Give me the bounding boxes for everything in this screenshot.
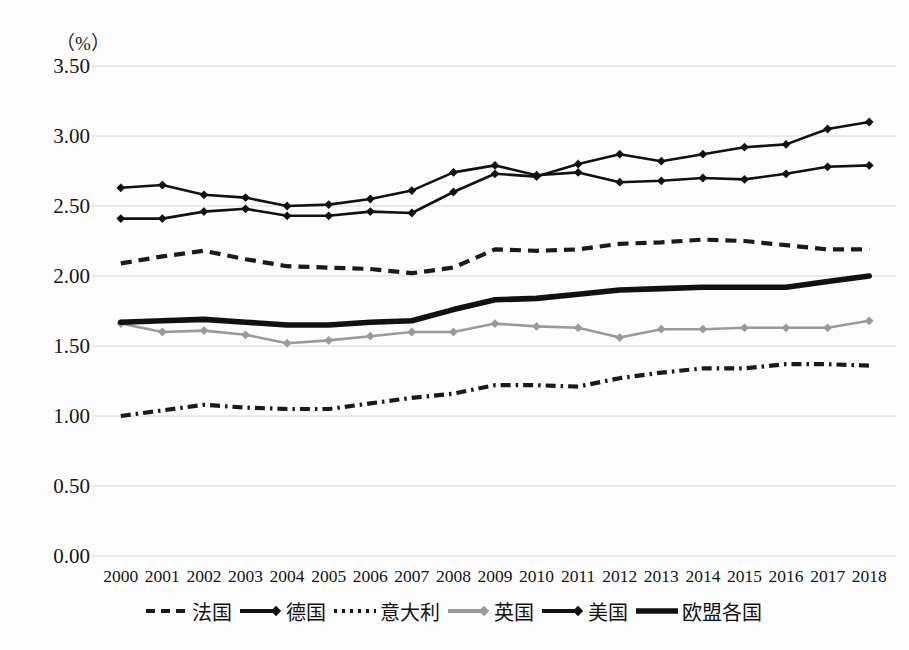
x-axis-tick-label: 2004 bbox=[270, 566, 305, 587]
x-axis-tick-label: 2009 bbox=[478, 566, 513, 587]
legend-label: 英国 bbox=[494, 597, 534, 626]
data-point-marker bbox=[615, 333, 624, 342]
series-line bbox=[121, 240, 869, 274]
series-layer bbox=[116, 118, 873, 416]
legend-item-2[interactable]: 德国 bbox=[238, 597, 330, 626]
legend-item-1[interactable]: 法国 bbox=[144, 597, 236, 626]
data-point-marker bbox=[324, 200, 333, 209]
gridlines bbox=[92, 66, 896, 556]
data-point-marker bbox=[823, 125, 832, 134]
data-point-marker bbox=[407, 209, 416, 218]
data-point-marker bbox=[158, 214, 167, 223]
x-axis: 2000200120022003200420052006200720082009… bbox=[0, 566, 909, 594]
data-point-marker bbox=[449, 188, 458, 197]
data-point-marker bbox=[283, 202, 292, 211]
legend-label: 德国 bbox=[286, 597, 326, 626]
dotted-line-swatch bbox=[332, 602, 378, 620]
line-chart: （%） 0.000.501.001.502.002.503.003.50 200… bbox=[0, 0, 909, 650]
data-point-marker bbox=[366, 332, 375, 341]
legend-label: 法国 bbox=[192, 597, 232, 626]
data-point-marker bbox=[698, 150, 707, 159]
data-point-marker bbox=[200, 190, 209, 199]
legend-label: 意大利 bbox=[380, 597, 440, 626]
data-point-marker bbox=[865, 161, 874, 170]
legend-label: 欧盟各国 bbox=[682, 597, 762, 626]
data-point-marker bbox=[116, 183, 125, 192]
data-point-marker bbox=[823, 162, 832, 171]
series-1 bbox=[121, 240, 869, 274]
x-axis-tick-label: 2014 bbox=[685, 566, 720, 587]
data-point-marker bbox=[158, 181, 167, 190]
data-point-marker bbox=[698, 174, 707, 183]
x-axis-tick-label: 2007 bbox=[394, 566, 429, 587]
x-axis-tick-label: 2005 bbox=[311, 566, 346, 587]
thick-solid-line-swatch bbox=[634, 602, 680, 620]
x-axis-tick-label: 2001 bbox=[145, 566, 180, 587]
x-axis-tick-label: 2012 bbox=[602, 566, 637, 587]
data-point-marker bbox=[200, 207, 209, 216]
data-point-marker bbox=[241, 193, 250, 202]
data-point-marker bbox=[740, 143, 749, 152]
plot-area bbox=[0, 0, 909, 650]
data-point-marker bbox=[491, 169, 500, 178]
data-point-marker bbox=[574, 168, 583, 177]
data-point-marker bbox=[366, 195, 375, 204]
legend-item-4[interactable]: 英国 bbox=[446, 597, 538, 626]
dashed-line-swatch bbox=[144, 602, 190, 620]
data-point-marker bbox=[740, 175, 749, 184]
data-point-marker bbox=[241, 330, 250, 339]
data-point-marker bbox=[116, 214, 125, 223]
x-axis-tick-label: 2017 bbox=[810, 566, 845, 587]
legend-item-3[interactable]: 意大利 bbox=[332, 597, 444, 626]
data-point-marker bbox=[615, 178, 624, 187]
series-line bbox=[121, 364, 869, 416]
data-point-marker bbox=[491, 319, 500, 328]
data-point-marker bbox=[407, 328, 416, 337]
data-point-marker bbox=[615, 150, 624, 159]
x-axis-tick-label: 2000 bbox=[103, 566, 138, 587]
data-point-marker bbox=[657, 157, 666, 166]
data-point-marker bbox=[407, 186, 416, 195]
data-point-marker bbox=[657, 176, 666, 185]
data-point-marker bbox=[366, 207, 375, 216]
x-axis-tick-label: 2015 bbox=[727, 566, 762, 587]
data-point-marker bbox=[782, 140, 791, 149]
data-point-marker bbox=[532, 171, 541, 180]
x-axis-tick-label: 2013 bbox=[644, 566, 679, 587]
data-point-marker bbox=[782, 323, 791, 332]
legend-label: 美国 bbox=[588, 597, 628, 626]
x-axis-tick-label: 2018 bbox=[852, 566, 887, 587]
legend-item-6[interactable]: 欧盟各国 bbox=[634, 597, 766, 626]
x-axis-tick-label: 2016 bbox=[769, 566, 804, 587]
data-point-marker bbox=[491, 161, 500, 170]
data-point-marker bbox=[657, 325, 666, 334]
series-6 bbox=[121, 276, 869, 325]
data-point-marker bbox=[574, 323, 583, 332]
data-point-marker bbox=[698, 325, 707, 334]
data-point-marker bbox=[200, 326, 209, 335]
series-line bbox=[121, 276, 869, 325]
x-axis-tick-label: 2003 bbox=[228, 566, 263, 587]
chart-legend: 法国德国意大利英国美国欧盟各国 bbox=[0, 594, 909, 628]
legend-item-5[interactable]: 美国 bbox=[540, 597, 632, 626]
series-2 bbox=[116, 118, 873, 223]
data-point-marker bbox=[449, 328, 458, 337]
data-point-marker bbox=[449, 168, 458, 177]
x-axis-tick-label: 2008 bbox=[436, 566, 471, 587]
data-point-marker bbox=[324, 211, 333, 220]
solid-arrow-diamond-swatch bbox=[540, 602, 586, 620]
x-axis-tick-label: 2002 bbox=[186, 566, 221, 587]
data-point-marker bbox=[740, 323, 749, 332]
gray-diamond-line-swatch bbox=[446, 602, 492, 620]
x-axis-tick-label: 2006 bbox=[353, 566, 388, 587]
data-point-marker bbox=[532, 322, 541, 331]
series-5 bbox=[116, 161, 873, 210]
data-point-marker bbox=[782, 169, 791, 178]
data-point-marker bbox=[865, 118, 874, 127]
data-point-marker bbox=[283, 211, 292, 220]
data-point-marker bbox=[823, 323, 832, 332]
x-axis-tick-label: 2010 bbox=[519, 566, 554, 587]
series-3 bbox=[121, 364, 869, 416]
data-point-marker bbox=[324, 336, 333, 345]
data-point-marker bbox=[574, 160, 583, 169]
